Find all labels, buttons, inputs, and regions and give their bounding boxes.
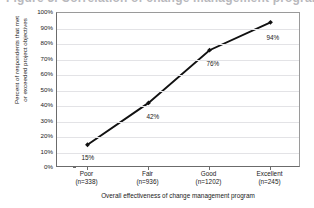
y-axis-title: Percent of respondents that met or excee… — [13, 0, 29, 135]
x-axis-category-sample-size: (n=338) — [52, 178, 122, 186]
data-point-label: 15% — [82, 155, 95, 161]
y-axis-title-line1: Percent of respondents that met — [13, 0, 21, 135]
chart-figure: 0%10%20%30%40%50%60%70%80%90%100% Percen… — [0, 0, 314, 208]
gridline — [57, 29, 299, 30]
gridline — [57, 122, 299, 123]
y-axis-tick-label: 10% — [23, 149, 53, 155]
series-line — [88, 22, 271, 144]
x-axis-tick-label: Good(n=1202) — [174, 170, 244, 187]
x-axis-title: Overall effectiveness of change manageme… — [56, 192, 300, 200]
x-axis-tick-mark — [270, 167, 271, 170]
x-axis-tick-mark — [209, 167, 210, 170]
data-point-label: 42% — [147, 114, 160, 120]
gridline — [57, 44, 299, 45]
gridline — [57, 106, 299, 107]
x-axis-category-name: Poor — [52, 170, 122, 178]
x-axis-category-name: Good — [174, 170, 244, 178]
x-axis-tick-label: Fair(n=936) — [113, 170, 183, 187]
x-axis-tick-mark — [148, 167, 149, 170]
gridline — [57, 137, 299, 138]
x-axis-tick-mark — [87, 167, 88, 170]
plot-area: 15%42%76%94% — [56, 12, 300, 167]
y-axis-title-line2: or exceeded project objectives — [21, 0, 29, 135]
gridline — [57, 91, 299, 92]
gridline — [57, 75, 299, 76]
x-axis-tick-labels: Poor(n=338)Fair(n=936)Good(n=1202)Excell… — [56, 170, 300, 190]
y-axis-tick-label: 0% — [23, 164, 53, 170]
x-axis-tick-label: Excellent(n=245) — [235, 170, 305, 187]
x-axis-category-name: Excellent — [235, 170, 305, 178]
gridline — [57, 60, 299, 61]
x-axis-tick-label: Poor(n=338) — [52, 170, 122, 187]
x-axis-category-sample-size: (n=245) — [235, 178, 305, 186]
x-axis-category-name: Fair — [113, 170, 183, 178]
x-axis-category-sample-size: (n=1202) — [174, 178, 244, 186]
data-point-label: 94% — [267, 35, 280, 41]
x-axis-category-sample-size: (n=936) — [113, 178, 183, 186]
data-point-label: 76% — [207, 61, 220, 67]
